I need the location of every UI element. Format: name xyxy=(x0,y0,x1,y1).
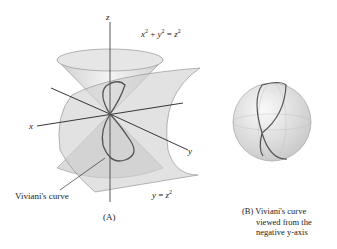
caption-b-line-2: viewed from the xyxy=(242,217,312,227)
caption-b-line-1: Viviani's curve xyxy=(255,206,306,216)
parabolic-cylinder xyxy=(59,68,200,192)
y-axis-label: y xyxy=(188,146,192,156)
figure-a xyxy=(37,22,200,202)
z-axis-label: z xyxy=(106,12,110,22)
figure-b xyxy=(233,83,311,162)
cone-equation: x2 + y2 = z2 xyxy=(141,29,181,39)
vivianis-curve-label: Viviani's curve xyxy=(15,191,69,201)
caption-b-tag: (B) xyxy=(242,206,253,216)
cylinder-equation: y = z2 xyxy=(152,190,172,200)
caption-a: (A) xyxy=(103,212,116,222)
sphere xyxy=(233,83,311,161)
x-axis-label: x xyxy=(29,121,33,131)
caption-b: (B) Viviani's curve viewed from the nega… xyxy=(242,206,312,238)
caption-b-line-3: negative y-axis xyxy=(242,227,308,237)
